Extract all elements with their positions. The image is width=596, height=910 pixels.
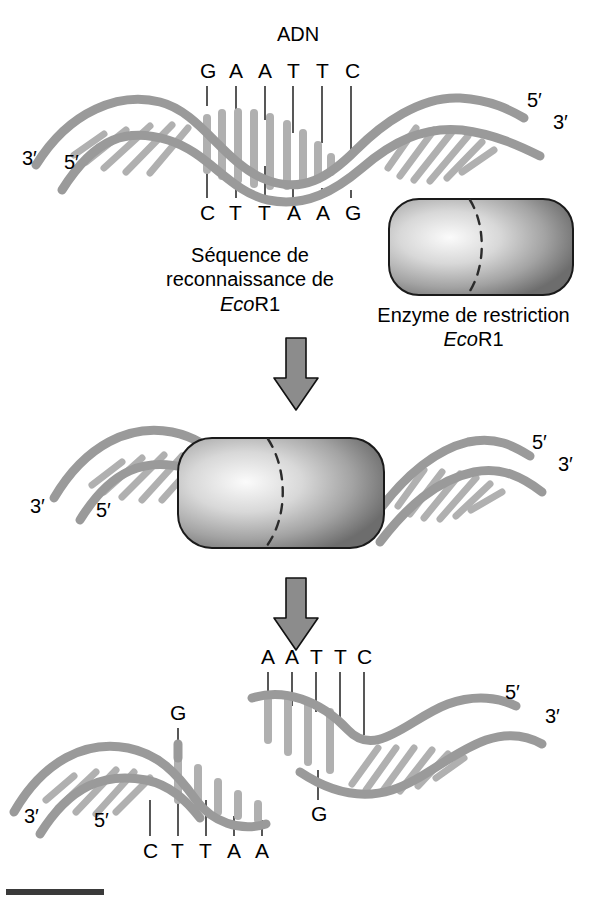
middle-label-5prime-left: 5′ bbox=[96, 500, 111, 520]
recognition-caption-enzyme: EcoR1 bbox=[140, 292, 360, 316]
bottom-sequence-base-5: G bbox=[345, 202, 361, 223]
middle-label-3prime-left: 3′ bbox=[30, 496, 45, 516]
left-fragment-base-0: C bbox=[143, 840, 158, 861]
right-fragment-label-5prime: 5′ bbox=[505, 682, 520, 702]
bottom-sequence-base-0: C bbox=[200, 202, 215, 223]
top-sequence-base-5: C bbox=[345, 60, 360, 81]
top-label-5prime-left: 5′ bbox=[64, 152, 79, 172]
bottom-sequence-base-4: A bbox=[316, 202, 330, 223]
right-fragment-base-4: C bbox=[357, 646, 372, 667]
right-fragment-base-3: T bbox=[334, 646, 347, 667]
top-sequence-base-1: A bbox=[229, 60, 243, 81]
dna-fragment-bottom-left bbox=[14, 744, 266, 834]
bottom-sequence-base-3: A bbox=[287, 202, 301, 223]
bottom-left-tick-lines bbox=[150, 728, 262, 836]
enzyme-caption-name: EcoR1 bbox=[351, 327, 596, 351]
top-sequence-base-0: G bbox=[200, 60, 216, 81]
eco-italic-top: Eco bbox=[220, 293, 254, 315]
arrow-step-2 bbox=[274, 578, 318, 650]
left-fragment-base-4: A bbox=[255, 840, 269, 861]
bottom-sequence-base-2: T bbox=[258, 202, 271, 223]
recognition-caption-line-1: Séquence de bbox=[140, 243, 360, 267]
right-fragment-base-1: A bbox=[285, 646, 299, 667]
recognition-caption-line-2: reconnaissance de bbox=[140, 267, 360, 291]
r1-top: R1 bbox=[254, 293, 280, 315]
bottom-sequence-base-1: T bbox=[229, 202, 242, 223]
recognition-sequence-caption: Séquence de reconnaissance de EcoR1 bbox=[140, 243, 360, 316]
top-label-3prime-right: 3′ bbox=[553, 112, 568, 132]
right-fragment-base-0: A bbox=[261, 646, 275, 667]
enzyme-caption-line-1: Enzyme de restriction bbox=[351, 303, 596, 327]
enzyme-free-top bbox=[389, 199, 573, 295]
left-fragment-label-5prime: 5′ bbox=[94, 810, 109, 830]
right-fragment-overhang-g: G bbox=[311, 803, 327, 824]
dna-helix-middle-right bbox=[372, 440, 542, 542]
page-title: ADN bbox=[0, 24, 596, 44]
dna-helix-top bbox=[36, 98, 540, 202]
top-sequence-base-4: T bbox=[316, 60, 329, 81]
left-fragment-label-3prime: 3′ bbox=[24, 806, 39, 826]
figure-canvas: ADN G A A T T C C T T A A G 3′ 5′ 5′ 3′ … bbox=[0, 0, 596, 910]
top-label-5prime-right: 5′ bbox=[527, 90, 542, 110]
middle-label-3prime-right: 3′ bbox=[558, 454, 573, 474]
top-sequence-base-2: A bbox=[258, 60, 272, 81]
enzyme-bound-middle bbox=[178, 438, 384, 548]
top-label-3prime-left: 3′ bbox=[22, 148, 37, 168]
right-fragment-label-3prime: 3′ bbox=[545, 706, 560, 726]
left-fragment-base-2: T bbox=[199, 840, 212, 861]
diagram-graphics bbox=[0, 0, 596, 910]
left-fragment-base-3: A bbox=[227, 840, 241, 861]
right-fragment-base-2: T bbox=[310, 646, 323, 667]
r1-enzyme: R1 bbox=[478, 328, 504, 350]
enzyme-caption: Enzyme de restriction EcoR1 bbox=[351, 303, 596, 352]
top-sequence-base-3: T bbox=[287, 60, 300, 81]
footer-rule-bar bbox=[6, 889, 104, 895]
middle-label-5prime-right: 5′ bbox=[532, 432, 547, 452]
left-fragment-base-1: T bbox=[171, 840, 184, 861]
left-fragment-overhang-g: G bbox=[170, 702, 186, 723]
arrow-step-1 bbox=[274, 338, 318, 410]
eco-italic-enzyme: Eco bbox=[443, 328, 477, 350]
dna-fragment-bottom-right bbox=[252, 695, 542, 795]
